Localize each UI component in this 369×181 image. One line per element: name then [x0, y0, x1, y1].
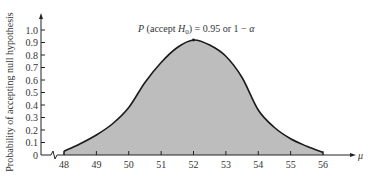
x-axis-label: μ [357, 150, 363, 161]
x-tick-label: 51 [156, 159, 166, 170]
y-tick-label: 0.7 [26, 62, 39, 73]
x-tick-label: 54 [253, 159, 263, 170]
x-tick-label: 52 [189, 159, 199, 170]
y-tick-label: 1.0 [26, 25, 39, 36]
y-tick-label: 0.6 [26, 75, 39, 86]
y-axis-label: Probability of accepting null hypothesis [4, 12, 15, 172]
y-axis-arrow-icon [39, 13, 43, 19]
probability-area-fill [64, 40, 323, 155]
x-tick-label: 49 [91, 159, 101, 170]
y-tick-label: 0.5 [26, 87, 39, 98]
x-tick-label: 50 [124, 159, 134, 170]
x-tick-label: 53 [221, 159, 231, 170]
chart: 00.10.20.30.40.50.60.70.80.91.0484950515… [0, 0, 369, 181]
y-tick-label: 0.9 [26, 37, 39, 48]
x-tick-label: 48 [59, 159, 69, 170]
y-tick-label: 0.1 [26, 137, 39, 148]
x-tick-label: 56 [318, 159, 328, 170]
axis-break-icon [51, 151, 57, 159]
chart-svg: 00.10.20.30.40.50.60.70.80.91.0484950515… [0, 0, 369, 181]
x-tick-label: 55 [286, 159, 296, 170]
y-tick-label: 0.4 [26, 100, 39, 111]
y-tick-label: 0.2 [26, 125, 39, 136]
y-tick-label: 0 [33, 150, 38, 161]
area-layer [64, 39, 323, 155]
x-axis-arrow-icon [350, 153, 356, 157]
y-tick-label: 0.3 [26, 112, 39, 123]
peak-point [192, 39, 195, 42]
y-tick-label: 0.8 [26, 50, 39, 61]
peak-annotation: P (accept H0) = 0.95 or 1 − α [137, 23, 255, 36]
